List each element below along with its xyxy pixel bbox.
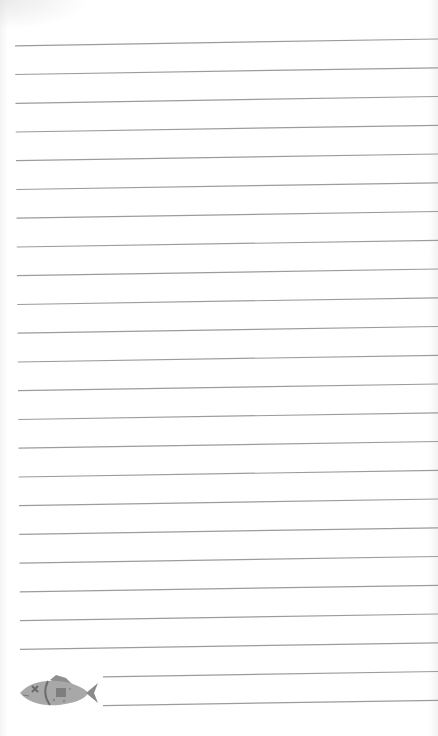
ruled-line bbox=[17, 269, 438, 276]
ruled-line bbox=[16, 154, 438, 161]
ruled-line bbox=[19, 499, 438, 506]
ruled-line bbox=[20, 557, 438, 564]
ruled-line bbox=[18, 327, 438, 334]
ruled-line bbox=[19, 470, 438, 477]
ruled-line bbox=[15, 39, 438, 46]
ruled-line bbox=[19, 442, 438, 449]
fish-icon bbox=[20, 675, 98, 705]
ruled-line bbox=[18, 384, 438, 391]
ruled-line bbox=[19, 528, 438, 535]
short-ruled-line bbox=[103, 700, 438, 705]
ruled-line bbox=[20, 643, 438, 650]
ruled-line bbox=[18, 355, 438, 362]
ruled-line bbox=[17, 212, 438, 219]
ruled-line bbox=[20, 585, 438, 592]
ruled-line bbox=[20, 614, 438, 621]
ruled-line bbox=[16, 97, 438, 104]
ruled-line bbox=[17, 240, 438, 247]
ruled-line bbox=[17, 298, 438, 305]
ruled-line bbox=[16, 183, 438, 190]
lined-paper bbox=[0, 0, 438, 736]
short-ruled-line bbox=[103, 672, 438, 677]
ruled-lines bbox=[0, 0, 438, 736]
ruled-line bbox=[18, 413, 438, 420]
ruled-line bbox=[15, 68, 438, 75]
ruled-line bbox=[16, 125, 438, 132]
